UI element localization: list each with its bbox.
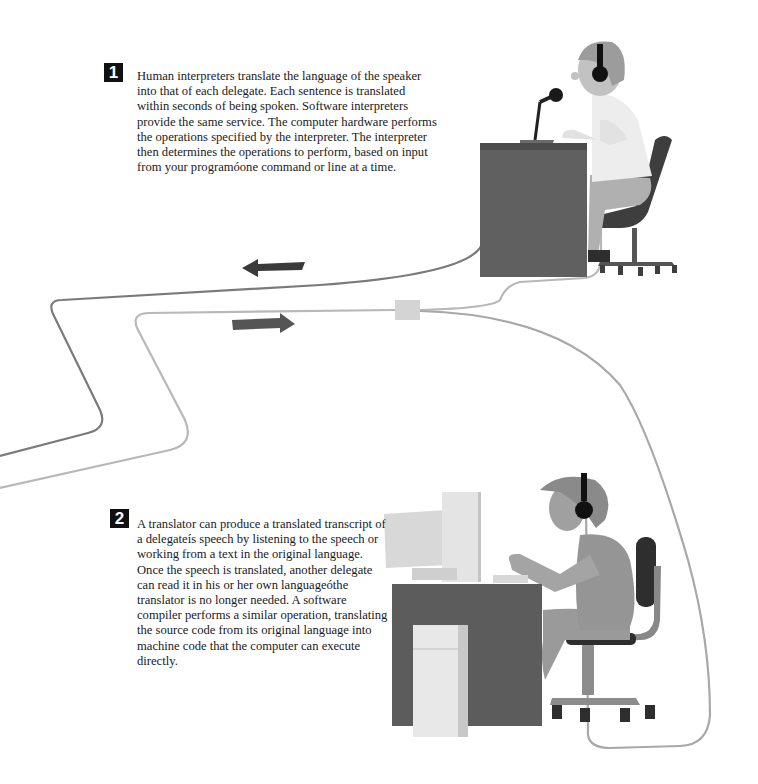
arrow-left-icon bbox=[242, 259, 305, 277]
cable-dark bbox=[0, 145, 505, 456]
caption-compiler: A translator can produce a translated tr… bbox=[137, 517, 392, 669]
translator-scene bbox=[384, 473, 661, 737]
caption-interpreter-text: Human interpreters translate the languag… bbox=[137, 69, 437, 175]
caption-compiler-text: A translator can produce a translated tr… bbox=[137, 517, 392, 669]
step-badge-1: 1 bbox=[104, 63, 123, 82]
arrow-right-icon bbox=[232, 313, 295, 333]
interpreter-scene bbox=[480, 41, 677, 277]
step-badge-2: 2 bbox=[110, 509, 129, 528]
connector-box bbox=[395, 300, 420, 320]
caption-interpreter: Human interpreters translate the languag… bbox=[137, 69, 437, 175]
